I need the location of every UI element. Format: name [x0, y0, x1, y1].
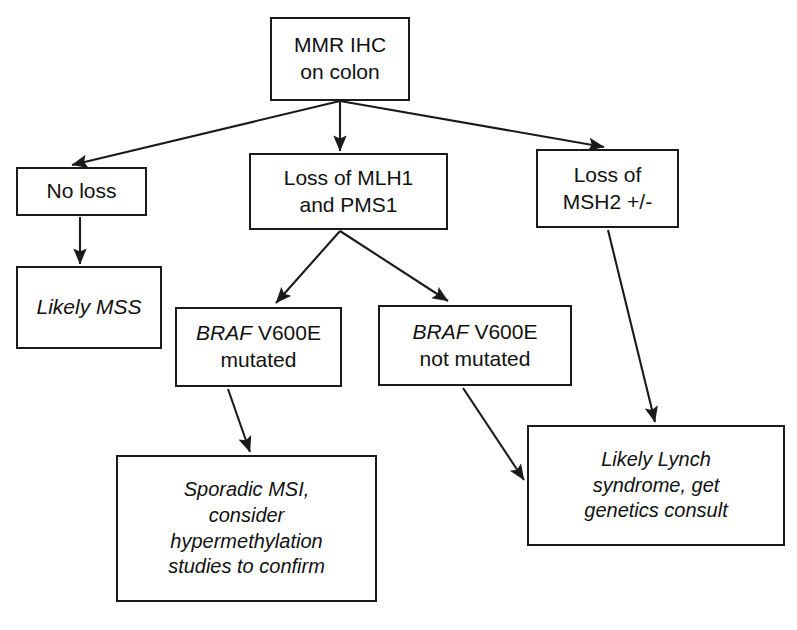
node-label: Likely MSS [30, 294, 147, 321]
node-likely-mss: Likely MSS [16, 266, 162, 349]
node-label: Loss of MLH1 and PMS1 [278, 165, 420, 219]
node-sporadic-msi-hypermethylation: Sporadic MSI, consider hypermethylation … [116, 455, 377, 602]
node-likely-lynch-syndrome: Likely Lynch syndrome, get genetics cons… [527, 425, 785, 546]
status-text: not mutated [420, 347, 531, 370]
edge-mmr-to-loss-msh2 [340, 101, 604, 147]
flowchart-canvas: MMR IHC on colonNo lossLoss of MLH1 and … [0, 0, 797, 630]
edge-msh2-to-lynch [608, 230, 655, 422]
node-braf-v600e-mutated: BRAF V600Emutated [175, 307, 342, 387]
status-text: mutated [221, 348, 297, 371]
node-label: BRAF V600Enot mutated [407, 319, 544, 373]
edge-braf-not-mutated-to-lynch [463, 388, 524, 480]
node-label: BRAF V600Emutated [190, 320, 327, 374]
node-loss-of-msh2: Loss of MSH2 +/- [536, 149, 679, 228]
gene-name-italic: BRAF [196, 321, 252, 344]
node-label: MMR IHC on colon [288, 32, 392, 86]
node-label: Loss of MSH2 +/- [557, 162, 658, 216]
node-mmr-ihc-on-colon: MMR IHC on colon [270, 17, 410, 101]
edge-braf-mutated-to-sporadic [228, 389, 250, 452]
node-label: Likely Lynch syndrome, get genetics cons… [578, 447, 733, 524]
node-loss-of-mlh1-and-pms1: Loss of MLH1 and PMS1 [249, 153, 448, 230]
node-braf-v600e-not-mutated: BRAF V600Enot mutated [378, 305, 572, 386]
variant-text: V600E [469, 320, 538, 343]
gene-name-italic: BRAF [413, 320, 469, 343]
node-no-loss: No loss [16, 167, 147, 216]
node-label: Sporadic MSI, consider hypermethylation … [162, 477, 331, 579]
edge-mlh1-to-braf-not-mutated [340, 231, 448, 301]
variant-text: V600E [252, 321, 321, 344]
node-label: No loss [40, 178, 122, 205]
edge-mlh1-to-braf-mutated [276, 231, 340, 303]
